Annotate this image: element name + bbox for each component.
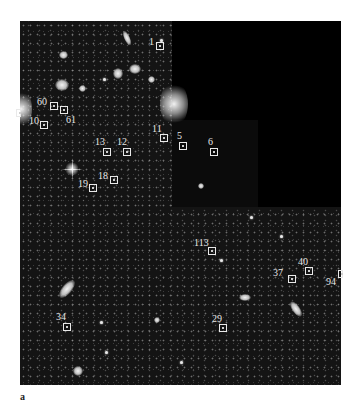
galaxy — [59, 51, 68, 59]
galaxy — [154, 317, 160, 323]
source-box-edge-partial — [16, 109, 21, 117]
source-label-19: 19 — [78, 179, 88, 189]
source-label-113: 113 — [194, 238, 209, 248]
source-box-113 — [208, 247, 216, 255]
source-box-18 — [110, 176, 118, 184]
star — [250, 216, 253, 219]
source-label-60: 60 — [37, 97, 47, 107]
source-label-29: 29 — [212, 314, 222, 324]
source-box-6 — [210, 148, 218, 156]
masked-region-right — [258, 120, 341, 207]
source-box-29 — [219, 324, 227, 332]
source-box-11 — [160, 134, 168, 142]
source-label-37: 37 — [273, 268, 283, 278]
star — [220, 259, 223, 262]
source-label-12: 12 — [117, 137, 127, 147]
star — [100, 321, 103, 324]
galaxy — [129, 64, 141, 74]
galaxy — [148, 76, 155, 83]
source-box-61 — [60, 106, 68, 114]
galaxy-pair — [239, 294, 251, 301]
galaxy — [79, 85, 86, 92]
source-label-11: 11 — [152, 124, 162, 134]
masked-region-top — [172, 21, 341, 120]
source-label-6: 6 — [208, 137, 213, 147]
source-box-10 — [40, 121, 48, 129]
source-box-12 — [123, 148, 131, 156]
galaxy — [198, 183, 204, 189]
source-box-13 — [103, 148, 111, 156]
star — [105, 351, 108, 354]
source-label-18: 18 — [98, 171, 108, 181]
source-label-94: 94 — [326, 277, 336, 287]
source-box-37 — [288, 275, 296, 283]
source-box-19 — [89, 184, 97, 192]
source-box-1 — [156, 42, 164, 50]
source-label-40: 40 — [298, 257, 308, 267]
source-label-61: 61 — [66, 115, 76, 125]
source-box-5 — [179, 142, 187, 150]
diffraction-spike — [72, 158, 73, 180]
source-box-34 — [63, 323, 71, 331]
galaxy — [73, 366, 83, 376]
galaxy — [113, 68, 123, 79]
star — [180, 361, 183, 364]
source-label-10: 10 — [29, 116, 39, 126]
source-label-1: 1 — [149, 37, 154, 47]
star — [280, 235, 283, 238]
source-label-13: 13 — [95, 137, 105, 147]
dim-region — [172, 120, 258, 207]
star — [103, 78, 106, 81]
source-box-40 — [305, 267, 313, 275]
galaxy — [55, 79, 69, 91]
panel-label: a — [20, 391, 25, 402]
source-box-94-partial — [338, 270, 343, 278]
source-box-60 — [50, 102, 58, 110]
bright-glow-center — [160, 81, 188, 127]
source-label-5: 5 — [177, 131, 182, 141]
source-label-34: 34 — [56, 312, 66, 322]
